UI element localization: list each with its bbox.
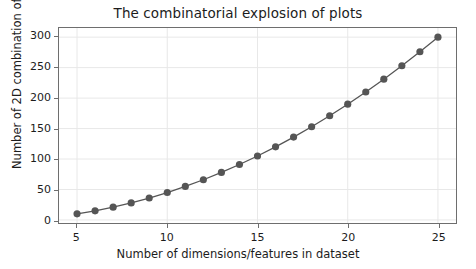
- data-point: [362, 88, 369, 95]
- data-point: [380, 76, 387, 83]
- x-tick-mark: [439, 224, 440, 228]
- x-tick-label: 5: [56, 232, 96, 243]
- x-tick-label: 15: [238, 232, 278, 243]
- data-point: [326, 112, 333, 119]
- data-point: [344, 101, 351, 108]
- plot-area: [58, 27, 457, 224]
- data-point: [272, 143, 279, 150]
- x-tick-mark: [76, 224, 77, 228]
- data-series-line: [59, 28, 456, 223]
- data-point: [434, 34, 441, 41]
- x-tick-label: 20: [328, 232, 368, 243]
- data-point: [398, 62, 405, 69]
- y-axis-label: Number of 2D combination of plots: [10, 0, 24, 169]
- x-tick-mark: [348, 224, 349, 228]
- data-point: [236, 161, 243, 168]
- x-tick-mark: [167, 224, 168, 228]
- chart-title: The combinatorial explosion of plots: [0, 5, 476, 21]
- data-point: [308, 123, 315, 130]
- x-tick-mark: [258, 224, 259, 228]
- data-point: [182, 183, 189, 190]
- data-point: [110, 204, 117, 211]
- y-tick-label: 50: [5, 184, 51, 195]
- x-axis-label: Number of dimensions/features in dataset: [0, 247, 476, 261]
- data-point: [92, 207, 99, 214]
- data-point: [164, 189, 171, 196]
- x-tick-label: 10: [147, 232, 187, 243]
- y-axis-label-wrapper: Number of 2D combination of plots: [10, 0, 26, 169]
- y-tick-label: 0: [5, 215, 51, 226]
- data-point: [73, 210, 80, 217]
- data-point: [146, 194, 153, 201]
- data-point: [218, 169, 225, 176]
- chart-figure: The combinatorial explosion of plots Num…: [0, 0, 476, 269]
- data-point: [200, 176, 207, 183]
- data-point: [128, 199, 135, 206]
- data-point: [290, 134, 297, 141]
- data-point: [254, 152, 261, 159]
- data-point: [416, 48, 423, 55]
- x-tick-label: 25: [419, 232, 459, 243]
